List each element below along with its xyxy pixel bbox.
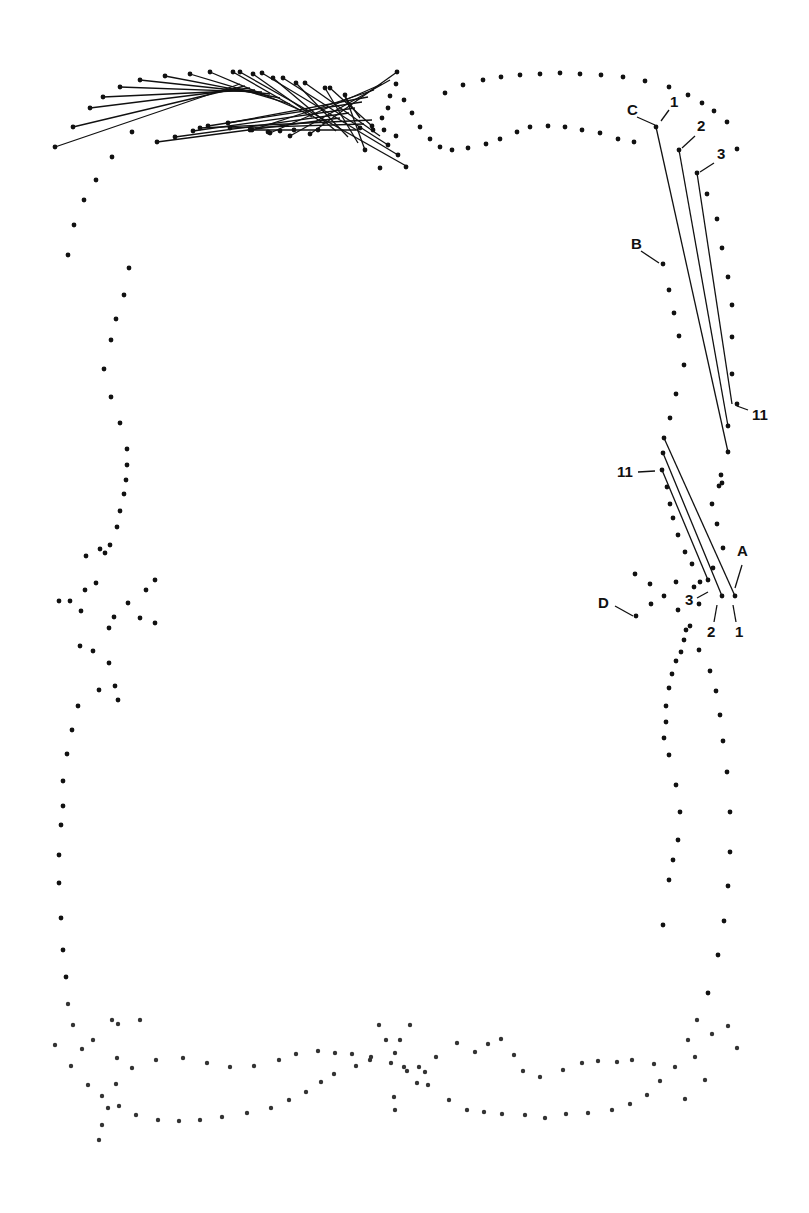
point-label: 11 bbox=[752, 406, 768, 423]
hole-dot bbox=[208, 70, 213, 75]
hole-dot bbox=[287, 1098, 291, 1102]
hole-dot bbox=[57, 853, 62, 858]
hole-dot bbox=[156, 1118, 160, 1122]
hole-dot bbox=[667, 85, 672, 90]
hole-dot bbox=[667, 288, 672, 293]
hole-dot bbox=[515, 130, 520, 135]
hole-dot bbox=[308, 132, 313, 137]
hole-dot bbox=[292, 128, 297, 133]
hole-dot bbox=[144, 588, 149, 593]
hole-dot bbox=[393, 1051, 397, 1055]
hole-dot bbox=[466, 146, 471, 151]
hole-dot bbox=[109, 395, 114, 400]
hole-dot bbox=[394, 82, 399, 87]
hole-dot bbox=[124, 478, 129, 483]
hole-dot bbox=[661, 923, 666, 928]
hole-dot bbox=[100, 1123, 104, 1127]
hole-dot bbox=[393, 1108, 397, 1112]
hole-dot bbox=[384, 1038, 388, 1042]
stitch-lines bbox=[55, 72, 735, 596]
hole-dot bbox=[226, 121, 231, 126]
hole-dot bbox=[398, 1038, 402, 1042]
hole-dot bbox=[205, 1061, 209, 1065]
hole-dot bbox=[245, 1111, 249, 1115]
hole-dot bbox=[66, 1002, 70, 1006]
hole-dot bbox=[122, 293, 127, 298]
hole-dot bbox=[658, 1079, 662, 1083]
point-label: 2 bbox=[697, 117, 705, 134]
hole-dot bbox=[122, 492, 127, 497]
hole-dot bbox=[378, 166, 383, 171]
hole-dot bbox=[118, 85, 123, 90]
hole-dot bbox=[486, 1042, 490, 1046]
hole-dot bbox=[528, 125, 533, 130]
hole-dot bbox=[82, 198, 87, 203]
hole-dot bbox=[686, 1038, 690, 1042]
hole-dot bbox=[91, 1038, 95, 1042]
hole-dot bbox=[648, 582, 653, 587]
hole-dot bbox=[53, 145, 58, 150]
hole-dot bbox=[438, 145, 443, 150]
hole-dot bbox=[108, 543, 113, 548]
hole-dot bbox=[726, 275, 731, 280]
hole-dot bbox=[130, 1066, 134, 1070]
hole-dot bbox=[721, 546, 726, 551]
hole-dot bbox=[389, 1061, 393, 1065]
hole-dot bbox=[138, 616, 143, 621]
hole-dot bbox=[323, 86, 328, 91]
hole-dot bbox=[722, 919, 727, 924]
hole-dot bbox=[564, 1112, 568, 1116]
hole-dot bbox=[447, 1098, 451, 1102]
hole-dot bbox=[580, 128, 585, 133]
hole-dot bbox=[670, 672, 675, 677]
hole-dot bbox=[191, 129, 196, 134]
hole-dot bbox=[112, 615, 117, 620]
hole-dot bbox=[711, 566, 716, 571]
hole-dot bbox=[177, 1119, 181, 1123]
hole-dot bbox=[410, 111, 415, 116]
hole-dot bbox=[698, 580, 703, 585]
hole-dot bbox=[683, 1097, 687, 1101]
hole-dot bbox=[107, 626, 112, 631]
hole-dot bbox=[667, 878, 672, 883]
hole-dot bbox=[686, 93, 691, 98]
hole-dot bbox=[371, 128, 376, 133]
hole-dot bbox=[98, 547, 103, 552]
hole-dot bbox=[408, 1023, 412, 1027]
hole-dot bbox=[633, 572, 638, 577]
hole-dot bbox=[714, 689, 719, 694]
label-leader-line bbox=[637, 117, 655, 125]
hole-dot bbox=[127, 266, 132, 271]
hole-dot bbox=[518, 73, 523, 78]
string-art-pattern: C123B1111A3D21 bbox=[0, 0, 809, 1213]
hole-dot bbox=[57, 881, 62, 886]
hole-dot bbox=[173, 135, 178, 140]
hole-dot bbox=[668, 502, 673, 507]
hole-dot bbox=[64, 975, 69, 980]
stitch-line bbox=[663, 453, 722, 596]
hole-dot bbox=[423, 1070, 427, 1074]
hole-dot bbox=[728, 850, 733, 855]
hole-dot bbox=[316, 128, 321, 133]
hole-dot bbox=[61, 804, 66, 809]
hole-dot bbox=[578, 72, 583, 77]
hole-dot bbox=[649, 602, 654, 607]
hole-dot bbox=[61, 779, 66, 784]
hole-dot bbox=[86, 1083, 90, 1087]
point-label: 3 bbox=[685, 591, 693, 608]
hole-dot bbox=[155, 140, 160, 145]
hole-dot bbox=[688, 624, 693, 629]
hole-dot bbox=[667, 686, 672, 691]
hole-dot bbox=[271, 76, 276, 81]
hole-dot bbox=[500, 1112, 504, 1116]
hole-dot bbox=[110, 1018, 114, 1022]
hole-dot bbox=[377, 1023, 381, 1027]
hole-dot bbox=[706, 578, 711, 583]
hole-dot bbox=[676, 838, 681, 843]
hole-dot bbox=[682, 363, 687, 368]
hole-dot bbox=[692, 585, 697, 590]
hole-dot bbox=[304, 1090, 308, 1094]
hole-dot bbox=[662, 436, 667, 441]
hole-dot bbox=[402, 98, 407, 103]
hole-dot bbox=[417, 1065, 421, 1069]
